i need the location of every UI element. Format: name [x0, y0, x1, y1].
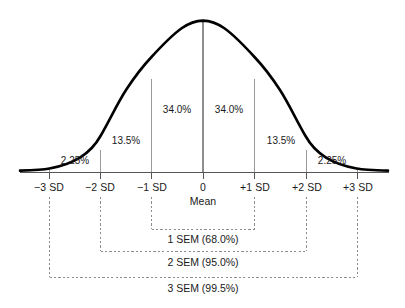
region-label-plus1-to-plus2: 13.5%: [267, 136, 295, 146]
mean-caption: Mean: [190, 196, 216, 207]
axis-label-plus3sd: +3 SD: [343, 182, 373, 193]
axis-label-minus3sd: −3 SD: [34, 182, 64, 193]
axis-ticks: [50, 173, 358, 179]
bracket-label-1sem: 1 SEM (68.0%): [167, 234, 238, 245]
region-label-minus2-to-minus1: 13.5%: [112, 136, 140, 146]
region-label-plus2-to-plus3: 2.25%: [318, 156, 346, 166]
axis-label-minus2sd: −2 SD: [85, 182, 115, 193]
bracket-label-3sem: 3 SEM (99.5%): [167, 283, 238, 294]
axis-label-minus1sd: −1 SD: [137, 182, 167, 193]
bracket-label-2sem: 2 SEM (95.0%): [167, 257, 238, 268]
region-label-mean-to-plus1: 34.0%: [215, 105, 243, 115]
axis-label-plus1sd: +1 SD: [240, 182, 270, 193]
normal-distribution-chart: 2.25% 13.5% 34.0% 34.0% 13.5% 2.25% −3 S…: [0, 0, 405, 308]
region-label-minus1-to-mean: 34.0%: [163, 105, 191, 115]
axis-label-plus2sd: +2 SD: [292, 182, 322, 193]
bell-curve-path: [20, 21, 388, 171]
region-label-minus3-to-minus2: 2.25%: [61, 156, 89, 166]
axis-label-mean-zero: 0: [200, 182, 206, 193]
